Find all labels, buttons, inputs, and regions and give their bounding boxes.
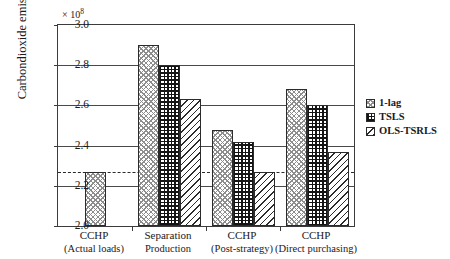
legend-label: OLS-TSRLS bbox=[379, 124, 437, 138]
x-axis-label-line1: CCHP bbox=[64, 228, 124, 242]
plot-area bbox=[57, 24, 355, 227]
legend-item-tsls: TSLS bbox=[366, 110, 437, 124]
y-axis-tick-label: 2.4 bbox=[49, 139, 89, 151]
bar-1-lag-group-3 bbox=[212, 130, 233, 226]
x-axis-label-line1: CCHP bbox=[211, 228, 273, 242]
legend-item-1-lag: 1-lag bbox=[366, 96, 437, 110]
bar-ols-tsrls-group-2 bbox=[180, 99, 201, 226]
bar-tsls-group-3 bbox=[233, 142, 254, 226]
bar-tsls-group-4 bbox=[307, 105, 328, 226]
chart-figure: Carbondioxide emission (g) × 108 2.02.22… bbox=[0, 0, 450, 259]
x-axis-label-line2: (Direct purchasing) bbox=[275, 242, 357, 256]
y-axis-tick-label: 2.2 bbox=[49, 179, 89, 191]
x-axis-label-group-3: CCHP(Post-strategy) bbox=[211, 228, 273, 256]
y-axis-title: Carbondioxide emission (g) bbox=[15, 0, 30, 130]
x-axis-label-group-2: SeparationProduction bbox=[144, 228, 191, 256]
legend-swatch-icon bbox=[366, 99, 375, 108]
x-axis-label-group-4: CCHP(Direct purchasing) bbox=[275, 228, 357, 256]
x-axis-label-group-1: CCHP(Actual loads) bbox=[64, 228, 124, 256]
x-axis-label-line2: (Post-strategy) bbox=[211, 242, 273, 256]
legend-swatch-icon bbox=[366, 127, 375, 136]
x-axis-label-line1: Separation bbox=[144, 228, 191, 242]
x-axis-label-line2: Production bbox=[144, 242, 191, 256]
x-axis-tick-mark bbox=[206, 226, 207, 231]
bar-1-lag-group-4 bbox=[286, 89, 307, 226]
bar-tsls-group-2 bbox=[159, 65, 180, 226]
y-axis-multiplier-exponent: 8 bbox=[80, 7, 84, 16]
bar-1-lag-group-2 bbox=[138, 45, 159, 226]
bar-ols-tsrls-group-4 bbox=[328, 152, 349, 226]
legend-swatch-icon bbox=[366, 113, 375, 122]
legend-label: 1-lag bbox=[379, 96, 401, 110]
legend-label: TSLS bbox=[379, 110, 405, 124]
legend-item-ols-tsrls: OLS-TSRLS bbox=[366, 124, 437, 138]
y-axis-tick-label: 2.8 bbox=[49, 58, 89, 70]
bar-ols-tsrls-group-3 bbox=[254, 172, 275, 226]
gridline bbox=[58, 65, 354, 66]
x-axis-tick-mark bbox=[132, 226, 133, 231]
y-axis-tick-label: 3.0 bbox=[49, 18, 89, 30]
chart-legend: 1-lagTSLSOLS-TSRLS bbox=[366, 96, 437, 138]
x-axis-label-line1: CCHP bbox=[275, 228, 357, 242]
x-axis-label-line2: (Actual loads) bbox=[64, 242, 124, 256]
y-axis-tick-label: 2.6 bbox=[49, 98, 89, 110]
